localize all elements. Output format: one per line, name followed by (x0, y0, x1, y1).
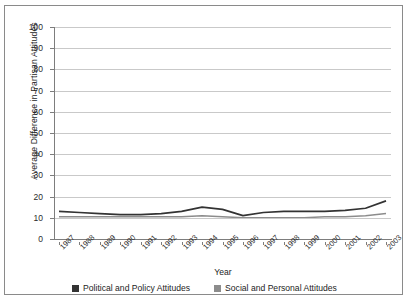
chart-legend: Political and Policy AttitudesSocial and… (5, 281, 404, 295)
legend-item-1: Social and Personal Attitudes (214, 283, 337, 293)
gridline-30 (54, 175, 391, 176)
plot-area (54, 27, 391, 239)
y-tick-label-100: 100 (29, 23, 43, 32)
x-axis-title: Year (54, 267, 392, 277)
y-tick-label-0: 0 (38, 235, 43, 244)
series-line-0 (59, 201, 386, 216)
gridline-60 (54, 112, 391, 113)
gridline-100 (54, 27, 391, 28)
y-tick-label-10: 10 (34, 214, 43, 223)
gridline-50 (54, 133, 391, 134)
y-axis-tick-labels: 0102030405060708090100 (5, 27, 50, 240)
y-tick-label-70: 70 (34, 87, 43, 96)
chart-frame: Average Difference in Partisan Attitudes… (4, 5, 403, 295)
y-tick-label-50: 50 (34, 129, 43, 138)
y-tick-label-60: 60 (34, 108, 43, 117)
gridline-90 (54, 48, 391, 49)
gridline-10 (54, 218, 391, 219)
y-tick-label-90: 90 (34, 44, 43, 53)
y-tick-label-80: 80 (34, 65, 43, 74)
y-tick-label-40: 40 (34, 150, 43, 159)
legend-item-0: Political and Policy Attitudes (72, 283, 190, 293)
legend-label-0: Political and Policy Attitudes (83, 283, 190, 293)
y-tick-label-30: 30 (34, 171, 43, 180)
legend-swatch-icon-1 (214, 285, 221, 292)
x-axis-tick-labels: 1987198819891990199119921993199419951996… (54, 242, 392, 268)
legend-swatch-icon-0 (72, 285, 79, 292)
gridline-70 (54, 91, 391, 92)
gridline-40 (54, 154, 391, 155)
gridline-20 (54, 197, 391, 198)
legend-label-1: Social and Personal Attitudes (225, 283, 337, 293)
chart-canvas: Average Difference in Partisan Attitudes… (5, 6, 402, 294)
y-axis-line (54, 27, 55, 240)
gridline-80 (54, 69, 391, 70)
y-tick-label-20: 20 (34, 193, 43, 202)
